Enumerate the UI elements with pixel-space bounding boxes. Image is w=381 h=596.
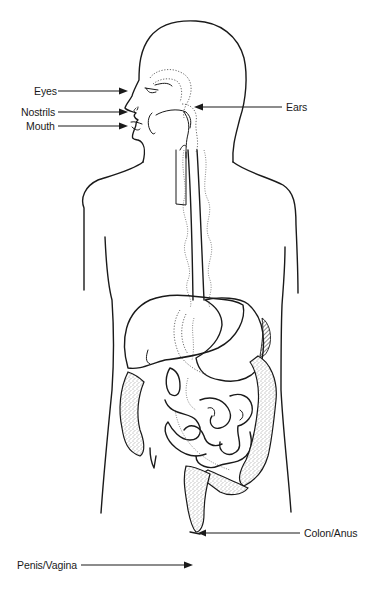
label-ears: Ears (286, 101, 307, 113)
large-intestine (120, 356, 276, 534)
body-outline-drawing (0, 0, 381, 596)
label-eyes: Eyes (34, 85, 57, 97)
label-nostrils: Nostrils (21, 106, 55, 118)
label-mouth: Mouth (26, 120, 55, 132)
label-penis-vagina: Penis/Vagina (17, 559, 77, 571)
liver (124, 295, 243, 368)
esophagus (176, 150, 212, 308)
head-outline (125, 21, 246, 162)
small-intestine (165, 394, 252, 470)
label-colon-anus: Colon/Anus (304, 527, 357, 539)
sinus-and-throat (150, 70, 198, 158)
digestive-system-diagram: Eyes Nostrils Mouth Ears Colon/Anus Peni… (0, 0, 381, 596)
